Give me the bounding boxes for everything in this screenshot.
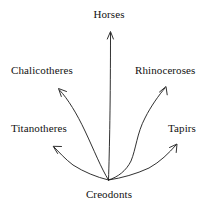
node-label-horses: Horses	[0, 8, 218, 20]
node-label-titanotheres: Titanotheres	[11, 122, 67, 134]
evolutionary-tree-diagram: Horses Chalicotheres Rhinoceroses Titano…	[0, 0, 218, 208]
node-label-rhinoceroses: Rhinoceroses	[135, 64, 195, 76]
branch-line-rhinoceroses	[109, 88, 166, 180]
node-label-chalicotheres: Chalicotheres	[11, 64, 73, 76]
branch-line-horses	[109, 33, 111, 180]
node-label-tapirs: Tapirs	[168, 122, 196, 134]
branch-line-chalicotheres	[60, 90, 109, 180]
tree-branch-lines	[0, 0, 218, 208]
node-label-creodonts: Creodonts	[0, 188, 218, 200]
